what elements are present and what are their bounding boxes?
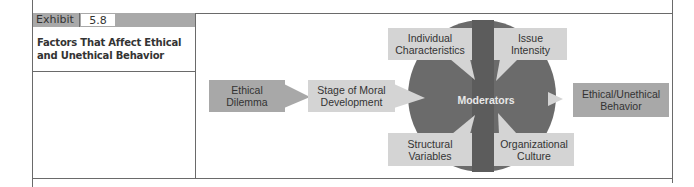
node-organizational-culture: Organizational Culture	[494, 133, 574, 166]
node-moderators: Moderators	[440, 94, 532, 106]
node-structural-variables: Structural Variables	[388, 133, 472, 166]
node-individual-characteristics: Individual Characteristics	[388, 28, 472, 60]
node-issue-intensity: Issue Intensity	[494, 28, 567, 60]
node-ethical-unethical-behavior: Ethical/Unethical Behavior	[573, 83, 669, 117]
node-stage-moral-development: Stage of Moral Development	[308, 80, 395, 112]
node-ethical-dilemma: Ethical Dilemma	[209, 80, 285, 112]
